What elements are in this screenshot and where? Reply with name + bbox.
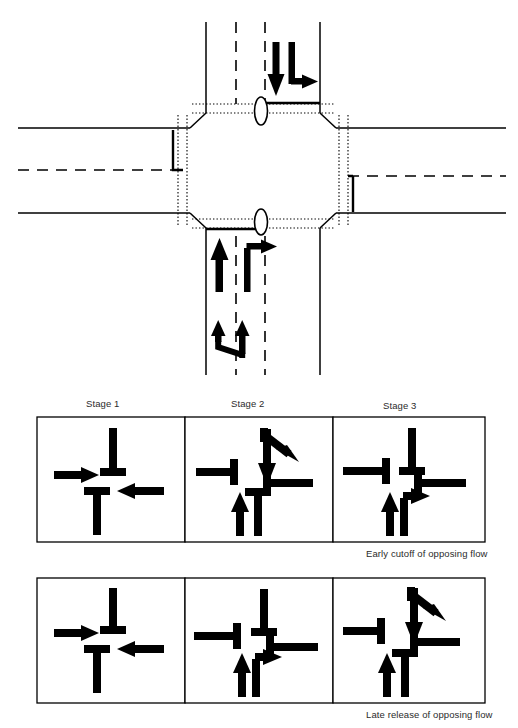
caption-late-release: Late release of opposing flow (366, 709, 492, 720)
figure-page: Stage 1 Stage 2 Stage 3 (0, 0, 518, 728)
stage-row-late-release (0, 0, 518, 728)
